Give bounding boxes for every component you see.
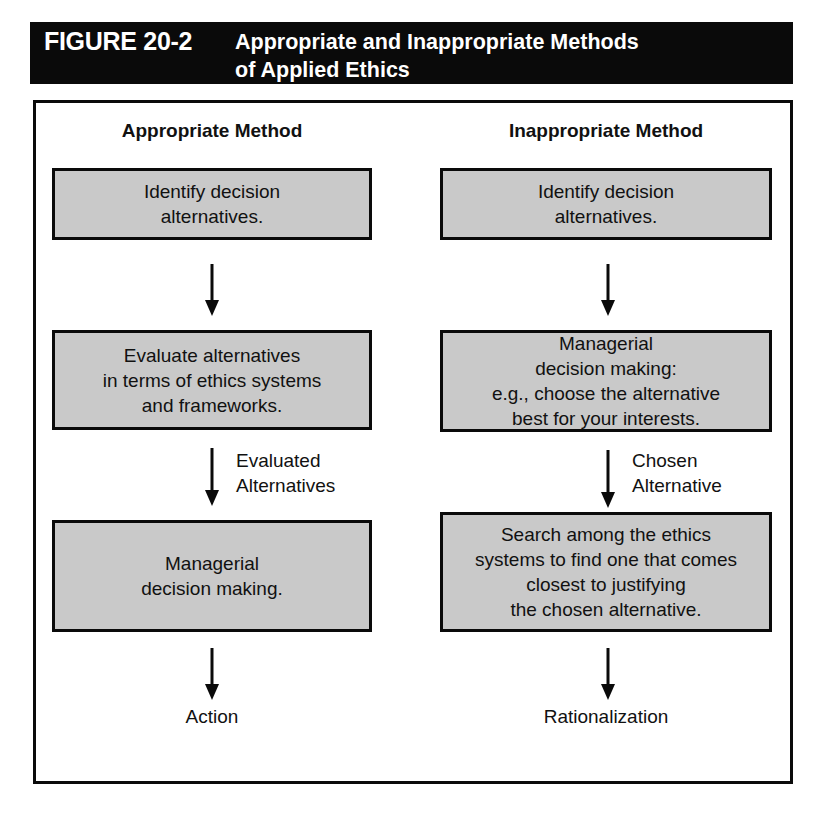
outcome-label-action: Action bbox=[52, 706, 372, 728]
figure-header-bar: FIGURE 20-2 Appropriate and Inappropriat… bbox=[30, 22, 793, 84]
figure-number-label: FIGURE 20-2 bbox=[44, 27, 192, 56]
process-box-left-1: Identify decision alternatives. bbox=[52, 168, 372, 240]
process-box-left-3: Managerial decision making. bbox=[52, 520, 372, 632]
process-box-right-3: Search among the ethics systems to find … bbox=[440, 512, 772, 632]
arrow-down-icon-right-1 bbox=[597, 264, 619, 316]
process-box-right-1: Identify decision alternatives. bbox=[440, 168, 772, 240]
arrow-down-icon-left-3 bbox=[201, 648, 223, 700]
figure-title: Appropriate and Inappropriate Methods of… bbox=[235, 28, 639, 84]
column-heading-appropriate: Appropriate Method bbox=[52, 120, 372, 142]
arrow-down-icon-right-3 bbox=[597, 648, 619, 700]
column-heading-inappropriate: Inappropriate Method bbox=[440, 120, 772, 142]
connector-label-chosen-alternative: Chosen Alternative bbox=[632, 448, 722, 498]
arrow-down-icon-left-1 bbox=[201, 264, 223, 316]
connector-label-evaluated-alternatives: Evaluated Alternatives bbox=[236, 448, 335, 498]
process-box-left-2: Evaluate alternatives in terms of ethics… bbox=[52, 330, 372, 430]
process-box-right-2: Managerial decision making: e.g., choose… bbox=[440, 330, 772, 432]
arrow-down-icon-left-2 bbox=[201, 448, 223, 506]
arrow-down-icon-right-2 bbox=[597, 450, 619, 508]
outcome-label-rationalization: Rationalization bbox=[440, 706, 772, 728]
